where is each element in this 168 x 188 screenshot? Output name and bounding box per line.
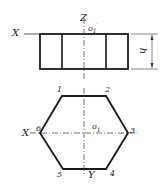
top-x-axis-label: X [22,128,29,138]
dimension-arrow-bottom [151,63,154,68]
vertex-label-2: 2 [105,86,110,94]
vertex-label-6: 6 [36,125,41,133]
top-view [30,88,138,176]
vertex-label-1: 1 [57,86,62,94]
height-dimension-label: h [138,48,148,54]
top-origin-label: o1 [92,123,101,133]
front-x-axis-label: X [12,28,19,38]
front-origin-label: o1′ [88,22,98,34]
origin-subscript: 1 [97,126,101,133]
z-axis-label: Z [80,13,87,23]
vertex-label-4: 4 [110,170,115,178]
y-axis-label: Y [88,170,95,180]
vertex-label-3: 3 [130,127,135,135]
origin-subscript: 1 [93,27,97,34]
dimension-arrow-top [151,35,154,40]
vertex-label-5: 5 [57,171,62,179]
origin-prime: ′ [97,21,98,28]
hexagonal-prism-projection [0,0,168,188]
